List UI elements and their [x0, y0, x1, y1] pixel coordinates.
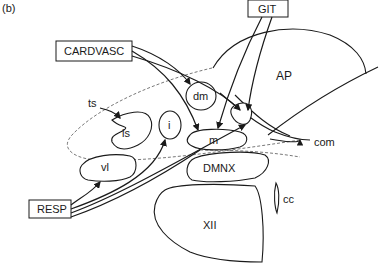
- com-label: com: [314, 136, 335, 148]
- git-to-subpostremal-arrow: [248, 17, 272, 110]
- dmnx-label: DMNX: [203, 162, 236, 174]
- resp-label: RESP: [37, 203, 67, 215]
- vl-label: vl: [101, 161, 109, 173]
- nts-boundary-dashed: [67, 68, 300, 160]
- nts-diagram: (b) AP com dm i m is ts vl DMNX XII cc C…: [0, 0, 380, 267]
- ts-pointer: [100, 108, 120, 118]
- git-label: GIT: [258, 3, 277, 15]
- ts-label: ts: [88, 97, 97, 109]
- central-canal: [274, 183, 278, 213]
- cardvasc-to-subpostremal-arrow: [132, 56, 240, 110]
- resp-to-vl-arrow: [71, 182, 100, 205]
- cardvasc-label: CARDVASC: [64, 45, 124, 57]
- xii-label: XII: [203, 219, 216, 231]
- dm-label: dm: [193, 90, 208, 102]
- i-label: i: [168, 119, 170, 131]
- is-nucleus: [112, 112, 152, 149]
- ap-outline: [213, 29, 366, 74]
- is-label: is: [122, 127, 130, 139]
- ap-label: AP: [276, 69, 292, 83]
- cc-label: cc: [283, 193, 295, 205]
- panel-label: (b): [2, 2, 15, 14]
- commissural-arrow: [270, 139, 300, 142]
